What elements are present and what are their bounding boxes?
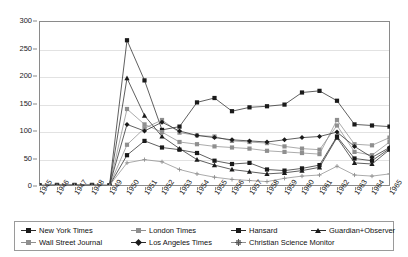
data-point: [317, 173, 321, 177]
y-axis-tick-label: 150: [19, 100, 32, 108]
data-point: [300, 151, 304, 155]
data-point: [160, 145, 164, 149]
data-point: [265, 167, 269, 171]
data-point: [370, 174, 374, 178]
legend-marker-square-icon: [21, 238, 36, 247]
data-point: [142, 78, 146, 82]
data-point: [300, 90, 304, 94]
legend-item-label: Wall Street Journal: [39, 238, 102, 247]
data-point: [335, 164, 339, 168]
y-axis-tick-label: 0: [28, 182, 32, 190]
y-axis-tick-mark: [33, 48, 37, 49]
data-point: [352, 173, 356, 177]
data-point: [142, 158, 146, 162]
y-axis-tick-mark: [33, 76, 37, 77]
y-axis-tick-mark: [33, 21, 37, 22]
data-point: [370, 143, 374, 147]
legend-marker-square-icon: [231, 226, 246, 235]
data-point: [195, 100, 199, 104]
data-point: [387, 140, 390, 144]
data-point: [230, 162, 234, 166]
data-point: [177, 140, 181, 144]
legend-item[interactable]: Guardian+Observer: [311, 226, 395, 235]
data-point: [230, 177, 234, 181]
data-point: [195, 142, 199, 146]
data-point: [142, 139, 146, 143]
legend-item[interactable]: Los Angeles Times: [131, 238, 212, 247]
chart-legend: New York TimesWall Street JournalLondon …: [14, 221, 394, 251]
data-point: [125, 143, 129, 147]
data-point: [300, 174, 304, 178]
y-axis-tick-label: 100: [19, 127, 32, 135]
data-point: [335, 118, 339, 122]
data-point: [265, 104, 269, 108]
legend-item[interactable]: New York Times: [21, 226, 93, 235]
y-axis-tick-mark: [33, 186, 37, 187]
data-point: [317, 89, 321, 93]
data-point: [194, 157, 199, 162]
y-axis-tick-label: 200: [19, 72, 32, 80]
y-axis-tick-mark: [33, 131, 37, 132]
data-point: [177, 167, 181, 171]
data-point: [387, 125, 390, 129]
data-point: [247, 105, 251, 109]
data-point: [160, 160, 164, 164]
legend-item[interactable]: London Times: [131, 226, 196, 235]
data-point: [160, 130, 164, 134]
legend-item-label: Christian Science Monitor: [249, 238, 334, 247]
legend-item-label: New York Times: [39, 226, 93, 235]
data-point: [142, 113, 147, 118]
legend-item[interactable]: Christian Science Monitor: [231, 238, 334, 247]
legend-marker-triangle-icon: [311, 226, 326, 235]
data-point: [177, 125, 181, 129]
data-point: [212, 96, 216, 100]
data-point: [300, 147, 304, 151]
data-point: [335, 123, 339, 127]
data-point: [125, 107, 129, 111]
chart-data-layer: [39, 21, 390, 186]
y-axis-tick-label: 300: [19, 17, 32, 25]
data-point: [317, 152, 321, 156]
data-point: [387, 172, 390, 176]
y-axis-tick-label: 250: [19, 45, 32, 53]
data-point: [282, 137, 287, 142]
data-point: [387, 136, 390, 140]
data-point: [230, 109, 234, 113]
data-point: [212, 144, 216, 148]
legend-item[interactable]: Hansard: [231, 226, 277, 235]
y-axis: 050100150200250300: [0, 14, 37, 194]
legend-item-label: Hansard: [249, 226, 277, 235]
data-point: [282, 144, 286, 148]
legend-marker-square-icon: [21, 226, 36, 235]
data-point: [352, 150, 356, 154]
data-point: [282, 150, 286, 154]
data-point: [125, 38, 129, 42]
data-point: [265, 149, 269, 153]
data-point: [230, 145, 234, 149]
data-point: [125, 153, 129, 157]
data-point: [352, 122, 356, 126]
legend-marker-diamond-icon: [131, 238, 146, 247]
legend-item-label: Los Angeles Times: [149, 238, 212, 247]
data-point: [247, 161, 251, 165]
y-axis-tick-mark: [33, 158, 37, 159]
data-point: [142, 122, 146, 126]
legend-item[interactable]: Wall Street Journal: [21, 238, 102, 247]
data-point: [282, 176, 286, 180]
data-point: [247, 147, 251, 151]
data-point: [195, 172, 199, 176]
legend-item-label: London Times: [149, 226, 196, 235]
data-point: [352, 156, 356, 160]
data-point: [335, 99, 339, 103]
data-point: [195, 151, 199, 155]
y-axis-tick-mark: [33, 103, 37, 104]
data-point: [125, 122, 130, 127]
data-point: [300, 135, 305, 140]
series-wall-street-journal: [39, 107, 390, 186]
legend-marker-cross-icon: [231, 238, 246, 247]
data-point: [370, 123, 374, 127]
data-point: [212, 159, 216, 163]
data-point: [247, 178, 251, 182]
data-point: [317, 148, 321, 152]
data-point: [317, 134, 322, 139]
